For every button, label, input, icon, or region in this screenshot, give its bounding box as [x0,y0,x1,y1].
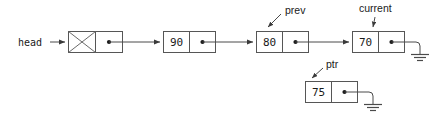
head-label: head [18,37,42,48]
node-90-value: 90 [170,36,183,49]
current-pointer-group: current [359,2,392,27]
prev-label: prev [285,4,306,16]
ptr-arrow [312,68,323,78]
prev-pointer-group: prev [268,4,306,27]
current-arrow [373,17,375,27]
node-75-value: 75 [312,86,325,99]
node-80-value: 80 [263,36,276,49]
current-label: current [359,2,392,14]
head-pointer-group: head [18,37,65,48]
diagram-canvas: head 90 prev [0,0,441,121]
prev-arrow [268,14,281,27]
node-70-value: 70 [359,36,372,49]
ptr-pointer-group: ptr [312,58,339,78]
ptr-label: ptr [326,58,339,70]
linked-list-diagram: head 90 prev [0,0,441,121]
